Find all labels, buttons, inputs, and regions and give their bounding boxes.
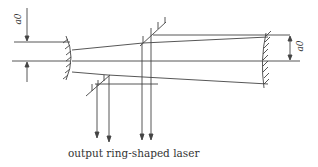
diagram-drawing (0, 0, 318, 167)
scraper-mirror-lower (86, 75, 110, 96)
left-dimension-marker (25, 8, 29, 82)
right-dimension-marker (288, 36, 292, 60)
left-dimension-label: a0 (13, 13, 23, 24)
output-beams (95, 36, 153, 142)
resonator-diagram: a0 a0 output ring-shaped laser (0, 0, 318, 167)
output-caption: output ring-shaped laser (68, 147, 199, 159)
convex-mirror-right (262, 31, 271, 88)
concave-mirror-left (63, 36, 71, 80)
right-dimension-label: a0 (295, 40, 305, 51)
